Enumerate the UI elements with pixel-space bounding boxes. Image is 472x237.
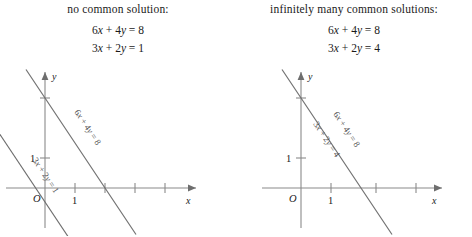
- equation-right-2: 3x + 2y = 4: [236, 42, 472, 54]
- equation-left-2-op: +: [106, 42, 113, 54]
- equation-right-2-op: +: [342, 42, 349, 54]
- equation-left-1: 6x + 4y = 8: [0, 24, 236, 36]
- equation-left-1-var2: y: [121, 24, 126, 36]
- graph-right: x y O 1 1 6x + 4y = 8 3x + 2y = 4: [236, 60, 472, 236]
- equation-left-1-op: +: [106, 24, 113, 36]
- y-axis-arrowhead-right: [298, 72, 305, 80]
- line-label-left-6x4y8: 6x + 4y = 8: [72, 108, 103, 148]
- origin-label-left: O: [33, 193, 41, 204]
- equation-right-2-var2: y: [357, 42, 362, 54]
- graph-line-left-6x4y8: [26, 70, 136, 235]
- equation-left-2-rhs: 1: [138, 42, 144, 54]
- line-label-left-3x2y1: 3x + 2y = 1: [30, 156, 61, 195]
- equation-left-1-var1: x: [98, 24, 103, 36]
- panel-infinitely-many-solutions: infinitely many common solutions: 6x + 4…: [236, 0, 472, 236]
- equation-left-2-var2: y: [121, 42, 126, 54]
- equation-right-1-var2: y: [357, 24, 362, 36]
- x-tick-label-1-left: 1: [72, 195, 77, 206]
- panel-no-common-solution: no common solution: 6x + 4y = 8 3x + 2y …: [0, 0, 236, 236]
- equation-right-2-rhs: 4: [374, 42, 380, 54]
- equation-left-2: 3x + 2y = 1: [0, 42, 236, 54]
- origin-label-right: O: [289, 193, 297, 204]
- caption-left: no common solution:: [0, 3, 236, 15]
- x-axis-arrowhead-right: [434, 185, 442, 192]
- equation-left-2-var1: x: [98, 42, 103, 54]
- x-axis-label-right: x: [431, 195, 437, 206]
- equation-right-1: 6x + 4y = 8: [236, 24, 472, 36]
- line-label-right-3x2y4: 3x + 2y = 4: [311, 120, 342, 160]
- equation-right-2-equals: =: [365, 42, 372, 54]
- x-axis-arrowhead-left: [188, 185, 196, 192]
- graph-line-left-3x2y1: [0, 126, 86, 237]
- equation-left-2-equals: =: [129, 42, 136, 54]
- x-axis-label-left: x: [185, 195, 191, 206]
- y-axis-label-left: y: [51, 71, 57, 82]
- equation-left-1-equals: =: [129, 24, 136, 36]
- y-tick-label-1-right: 1: [286, 153, 291, 164]
- equation-left-1-rhs: 8: [138, 24, 144, 36]
- caption-right: infinitely many common solutions:: [236, 3, 472, 15]
- equation-right-1-var1: x: [334, 24, 339, 36]
- equation-right-1-rhs: 8: [374, 24, 380, 36]
- graph-left: x y O 1 1 6x + 4y = 8 3x + 2y = 1: [0, 60, 236, 236]
- y-axis-label-right: y: [307, 71, 313, 82]
- y-axis-arrowhead-left: [42, 72, 49, 80]
- x-tick-label-1-right: 1: [328, 195, 333, 206]
- equation-right-1-op: +: [342, 24, 349, 36]
- equation-right-1-equals: =: [365, 24, 372, 36]
- equation-right-2-var1: x: [334, 42, 339, 54]
